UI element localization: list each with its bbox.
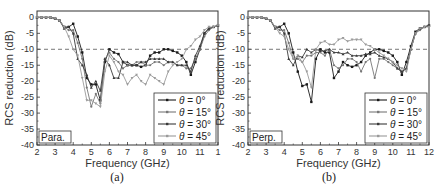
x-tick-label: 10	[388, 147, 398, 157]
y-tick-label: -15	[21, 60, 34, 70]
legend-entry: θ = 45°	[179, 131, 211, 142]
y-tick-label: 0	[240, 12, 245, 22]
y-axis-label: RCS reduction (dB)	[3, 30, 15, 125]
panel-caption: (a)	[110, 170, 123, 184]
x-axis-label: Frequency (GHz)	[296, 157, 380, 169]
y-tick-label: -25	[232, 92, 245, 102]
y-tick-label: -5	[26, 28, 34, 38]
legend-entry: θ = 30°	[179, 119, 211, 130]
x-tick-label: 9	[372, 147, 377, 157]
y-tick-label: -15	[232, 60, 245, 70]
x-tick-label: 1	[215, 147, 220, 157]
panel-tag: Para.	[41, 132, 65, 143]
y-tick-label: -20	[21, 76, 34, 86]
y-tick-label: -10	[21, 44, 34, 54]
legend: θ = 0°θ = 15°θ = 30°θ = 45°	[365, 93, 427, 143]
y-tick-label: -20	[232, 76, 245, 86]
y-tick-label: -25	[21, 92, 34, 102]
y-tick-label: -40	[232, 140, 245, 150]
legend: θ = 0°θ = 15°θ = 30°θ = 45°	[154, 93, 216, 143]
x-tick-label: 8	[354, 147, 359, 157]
panel-tag: Perp.	[252, 132, 276, 143]
figure: 23456789101110-5-10-15-20-25-30-35-40θ =…	[0, 0, 441, 190]
y-tick-label: -5	[237, 28, 245, 38]
panel-caption: (b)	[322, 170, 336, 184]
y-tick-label: -35	[232, 124, 245, 134]
legend-entry: θ = 15°	[179, 107, 211, 118]
x-tick-label: 7	[336, 147, 341, 157]
x-tick-label: 4	[282, 147, 287, 157]
chart-panel-b: 234567891011120-5-10-15-20-25-30-35-40θ …	[214, 11, 434, 184]
chart-panel-a: 23456789101110-5-10-15-20-25-30-35-40θ =…	[3, 11, 221, 184]
legend-entry: θ = 45°	[390, 131, 422, 142]
x-tick-label: 3	[264, 147, 269, 157]
x-tick-label: 2	[245, 147, 250, 157]
x-tick-label: 11	[406, 147, 415, 157]
x-axis-label: Frequency (GHz)	[85, 157, 169, 169]
legend-entry: θ = 0°	[179, 95, 205, 106]
legend-entry: θ = 30°	[390, 119, 422, 130]
x-tick-label: 11	[195, 147, 204, 157]
x-tick-label: 9	[161, 147, 166, 157]
x-tick-label: 2	[34, 147, 39, 157]
x-tick-label: 3	[53, 147, 58, 157]
x-tick-label: 12	[424, 147, 434, 157]
legend-entry: θ = 0°	[390, 95, 416, 106]
x-tick-label: 5	[89, 147, 94, 157]
y-axis-label: RCS reduction (dB)	[214, 30, 226, 125]
y-tick-label: -10	[232, 44, 245, 54]
x-tick-label: 6	[318, 147, 323, 157]
x-tick-label: 5	[300, 147, 305, 157]
x-tick-label: 8	[143, 147, 148, 157]
y-tick-label: -30	[232, 108, 245, 118]
x-tick-label: 4	[71, 147, 76, 157]
x-tick-label: 6	[107, 147, 112, 157]
y-tick-label: -30	[21, 108, 34, 118]
x-tick-label: 7	[125, 147, 130, 157]
legend-entry: θ = 15°	[390, 107, 422, 118]
x-tick-label: 10	[177, 147, 187, 157]
y-tick-label: 0	[29, 12, 34, 22]
y-tick-label: -40	[21, 140, 34, 150]
y-tick-label: -35	[21, 124, 34, 134]
